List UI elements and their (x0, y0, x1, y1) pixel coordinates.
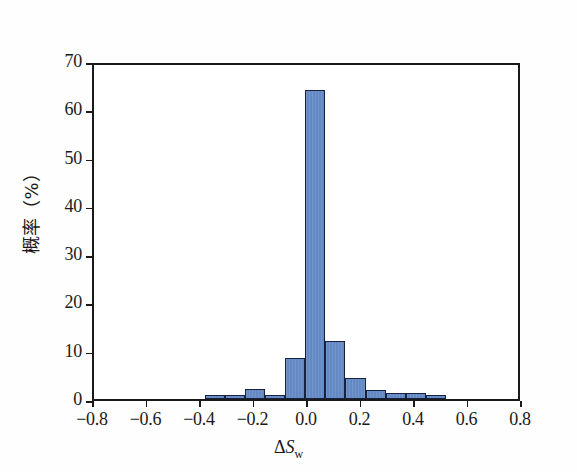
histogram-bar (225, 395, 245, 399)
x-axis-title-subscript: w (294, 447, 303, 461)
x-axis-title: ΔSw (0, 437, 577, 462)
histogram-bar (345, 378, 365, 399)
histogram-bar (305, 90, 325, 399)
plot-area (92, 63, 520, 401)
x-axis-tick (467, 401, 469, 407)
y-axis-tick (86, 63, 92, 65)
x-axis-tick-label: 0.8 (490, 409, 550, 430)
x-axis-tick (146, 401, 148, 407)
x-axis-tick (253, 401, 255, 407)
histogram-bar (325, 341, 345, 399)
histogram-bar (245, 389, 265, 399)
x-axis-tick (520, 401, 522, 407)
y-axis-tick (86, 208, 92, 210)
y-axis-tick (86, 256, 92, 258)
y-axis-tick (86, 401, 92, 403)
y-axis-tick-label: 10 (42, 341, 82, 362)
x-axis-tick-label: 0.0 (276, 409, 336, 430)
y-axis-tick (86, 160, 92, 162)
x-axis-tick-label: −0.4 (169, 409, 229, 430)
x-axis-tick (306, 401, 308, 407)
y-axis-tick (86, 353, 92, 355)
y-axis-title: 概率（%） (17, 119, 43, 299)
y-axis-tick (86, 304, 92, 306)
histogram-bar (205, 395, 225, 399)
histogram-bar (366, 390, 386, 399)
histogram-bar (386, 393, 406, 399)
x-axis-tick (199, 401, 201, 407)
x-axis-tick (360, 401, 362, 407)
y-axis-tick-label: 30 (42, 244, 82, 265)
histogram-bars (94, 65, 518, 399)
y-axis-tick-label: 70 (42, 51, 82, 72)
histogram-bar (265, 395, 285, 399)
y-axis-tick-label: 60 (42, 99, 82, 120)
y-axis-tick-label: 20 (42, 292, 82, 313)
x-axis-tick-label: −0.6 (116, 409, 176, 430)
x-axis-title-delta: Δ (274, 437, 286, 457)
x-axis-tick-label: 0.2 (330, 409, 390, 430)
figure-canvas: −0.8−0.6−0.4−0.20.00.20.40.60.8 01020304… (0, 0, 577, 472)
histogram-bar (285, 358, 305, 399)
x-axis-tick-label: 0.6 (437, 409, 497, 430)
y-axis-tick (86, 111, 92, 113)
x-axis-tick (92, 401, 94, 407)
y-axis-tick-label: 40 (42, 196, 82, 217)
x-axis-tick (413, 401, 415, 407)
histogram-bar (406, 393, 426, 399)
y-axis-tick-label: 50 (42, 148, 82, 169)
x-axis-tick-label: 0.4 (383, 409, 443, 430)
y-axis-tick-labels: 010203040506070 (38, 0, 82, 472)
x-axis-tick-label: −0.2 (223, 409, 283, 430)
y-axis-tick-label: 0 (42, 389, 82, 410)
histogram-bar (426, 395, 446, 399)
